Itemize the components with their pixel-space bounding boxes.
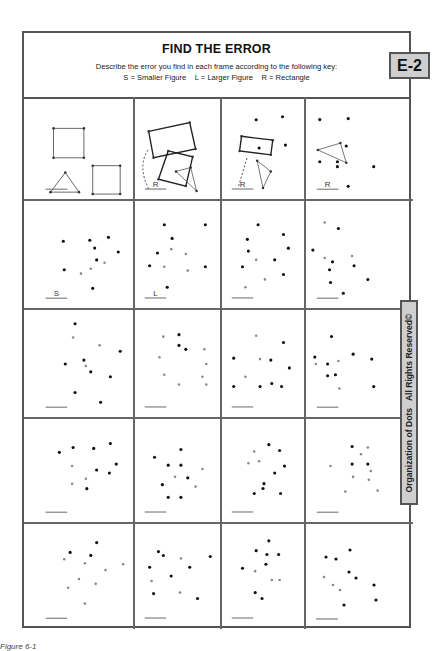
- dot: [326, 362, 329, 365]
- dot: [119, 350, 122, 353]
- dot: [174, 476, 177, 479]
- dot: [85, 487, 88, 490]
- dot: [329, 281, 332, 284]
- figure-caption: Figure 6-1: [0, 642, 36, 651]
- dot: [372, 165, 375, 168]
- dot: [201, 468, 204, 471]
- dot: [188, 566, 191, 569]
- frame-cell: S: [24, 201, 135, 310]
- dot: [78, 578, 81, 581]
- dot: [107, 236, 110, 239]
- dot: [180, 557, 183, 560]
- dot: [196, 597, 199, 600]
- dot: [313, 356, 316, 359]
- frame-cell: [222, 201, 306, 310]
- dot: [352, 476, 355, 479]
- dot: [367, 446, 370, 449]
- dot: [253, 450, 256, 453]
- dot: [157, 550, 160, 553]
- dot: [372, 385, 375, 388]
- frame-cell: [222, 419, 306, 524]
- frame-cell: [135, 524, 222, 629]
- dot: [108, 471, 111, 474]
- dot: [254, 570, 257, 573]
- dot: [150, 580, 153, 583]
- dot: [71, 482, 74, 485]
- dot: [287, 247, 290, 250]
- dot: [179, 464, 182, 467]
- dot: [255, 259, 258, 262]
- dot: [370, 358, 373, 361]
- dot: [334, 373, 337, 376]
- dot: [255, 118, 258, 121]
- dot: [366, 278, 369, 281]
- dot: [351, 445, 354, 448]
- dot: [262, 482, 265, 485]
- frame-cell: [24, 97, 135, 201]
- answer-label: S: [54, 289, 59, 298]
- dot: [329, 465, 332, 468]
- dot: [332, 584, 335, 587]
- dot: [247, 462, 250, 465]
- dot: [244, 375, 247, 378]
- dot: [71, 465, 74, 468]
- dot: [177, 333, 180, 336]
- dot: [95, 541, 98, 544]
- dot: [89, 370, 92, 373]
- dot: [318, 160, 321, 163]
- dot: [282, 341, 285, 344]
- answer-label: R: [325, 180, 331, 189]
- dot: [153, 456, 156, 459]
- answer-key: S = Smaller Figure L = Larger Figure R =…: [24, 72, 409, 83]
- dot: [283, 465, 286, 468]
- dot: [344, 490, 347, 493]
- dot: [254, 591, 257, 594]
- frame-cell: [222, 524, 306, 629]
- dot: [109, 375, 112, 378]
- dot: [348, 548, 351, 551]
- dot: [323, 257, 326, 260]
- dot: [278, 579, 281, 582]
- dot: [95, 468, 98, 471]
- dot: [69, 551, 72, 554]
- dot: [80, 272, 83, 275]
- frame-cell: R: [135, 97, 222, 201]
- dot: [91, 287, 94, 290]
- dot: [345, 144, 348, 147]
- dot: [73, 391, 76, 394]
- dot: [284, 144, 287, 147]
- dot: [258, 460, 261, 463]
- dot: [158, 356, 161, 359]
- dot: [374, 598, 377, 601]
- dot: [122, 563, 125, 566]
- dot: [95, 258, 98, 261]
- dot: [179, 496, 182, 499]
- dot: [64, 362, 67, 365]
- dot: [104, 569, 107, 572]
- frame-cell: [306, 419, 413, 524]
- dot: [73, 322, 76, 325]
- frame-cell: [306, 310, 413, 419]
- dot: [162, 335, 165, 338]
- dot: [84, 562, 87, 565]
- dot: [261, 487, 264, 490]
- dot: [232, 385, 235, 388]
- dot: [72, 336, 75, 339]
- dot: [255, 334, 258, 337]
- dot: [331, 260, 334, 263]
- dot: [260, 597, 263, 600]
- dot: [277, 553, 280, 556]
- dot: [259, 358, 262, 361]
- dot: [194, 485, 197, 488]
- dot: [99, 401, 102, 404]
- dot: [259, 385, 262, 388]
- dot: [279, 492, 282, 495]
- frame-cell: [306, 201, 413, 310]
- dot: [336, 165, 339, 168]
- dot: [244, 286, 247, 289]
- frame-cell: [24, 310, 135, 419]
- dot: [368, 479, 371, 482]
- dot: [241, 265, 244, 268]
- dot: [267, 539, 270, 542]
- dot: [117, 250, 120, 253]
